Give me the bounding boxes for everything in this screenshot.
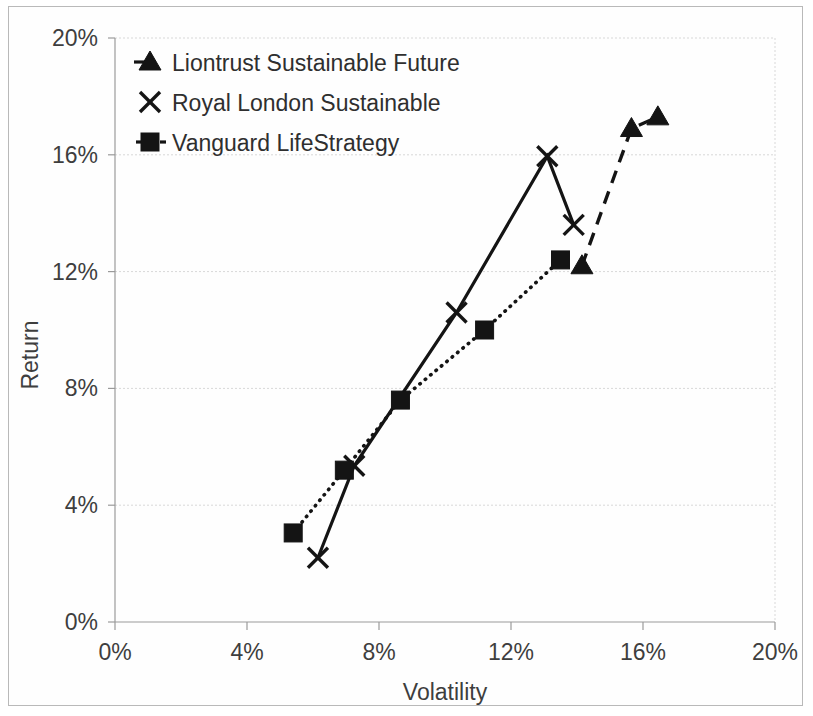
x-tick-label: 0% [98, 639, 131, 665]
y-tick-label: 4% [65, 492, 98, 518]
data-point-marker [620, 118, 642, 137]
x-tick-label: 12% [488, 639, 534, 665]
legend-marker-x-icon [140, 92, 160, 112]
y-tick-label: 20% [52, 25, 98, 51]
data-point-marker [284, 524, 302, 542]
x-tick-label: 4% [230, 639, 263, 665]
y-axis-title: Return [17, 320, 43, 389]
x-axis-title: Volatility [403, 679, 488, 705]
legend-label: Vanguard LifeStrategy [172, 130, 400, 156]
data-point-marker [308, 548, 328, 568]
data-point-marker [571, 255, 593, 274]
x-tick-label: 20% [752, 639, 798, 665]
y-tick-label: 0% [65, 609, 98, 635]
y-tick-label: 12% [52, 259, 98, 285]
data-point-marker [447, 302, 467, 322]
data-point-marker [647, 106, 669, 125]
legend-item-0[interactable]: Liontrust Sustainable Future [134, 50, 460, 76]
x-tick-label: 16% [620, 639, 666, 665]
data-point-marker [476, 321, 494, 339]
data-point-marker [552, 251, 570, 269]
legend-label: Royal London Sustainable [172, 90, 441, 116]
data-point-marker [537, 146, 557, 166]
y-tick-labels-group: 0%4%8%12%16%20% [52, 25, 98, 635]
y-tick-label: 8% [65, 375, 98, 401]
x-tick-label: 8% [362, 639, 395, 665]
data-point-marker [564, 215, 584, 235]
data-point-marker [335, 461, 353, 479]
series-line-0 [582, 117, 658, 266]
chart-screenshot: 0%4%8%12%16%20% 0%4%8%12%16%20% Return V… [0, 0, 813, 716]
y-tick-label: 16% [52, 142, 98, 168]
legend-marker-square-icon [141, 133, 159, 151]
data-point-marker [391, 391, 409, 409]
plot-area: 0%4%8%12%16%20% 0%4%8%12%16%20% Return V… [0, 0, 813, 716]
scatter-chart: 0%4%8%12%16%20% 0%4%8%12%16%20% Return V… [0, 0, 813, 716]
legend-label: Liontrust Sustainable Future [172, 50, 460, 76]
series-line-2 [293, 260, 560, 533]
legend-item-1[interactable]: Royal London Sustainable [140, 90, 441, 116]
legend: Liontrust Sustainable FutureRoyal London… [134, 50, 460, 156]
x-tick-labels-group: 0%4%8%12%16%20% [98, 639, 798, 665]
legend-item-2[interactable]: Vanguard LifeStrategy [136, 130, 400, 156]
series-line-1 [318, 156, 574, 558]
